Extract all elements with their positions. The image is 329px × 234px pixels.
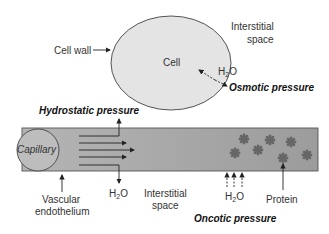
interstitial-space-bottom-line2: space xyxy=(152,200,179,211)
oncotic-water-label: H2O xyxy=(225,191,244,203)
capillary-tube xyxy=(22,128,318,171)
interstitial-space-top-line2: space xyxy=(247,34,274,45)
vascular-label-line1: Vascular xyxy=(42,194,81,205)
capillary-label: Capillary xyxy=(17,144,57,155)
fluid-pressure-diagram: Cell Cell wall Interstitial space H2O Os… xyxy=(0,0,329,234)
hydrostatic-water-label: H2O xyxy=(109,188,128,200)
oncotic-pressure-label: Oncotic pressure xyxy=(194,213,277,224)
oncotic-water-arrows xyxy=(227,173,242,187)
cell-wall-label: Cell wall xyxy=(54,45,91,56)
vascular-label-line2: endothelium xyxy=(35,206,89,217)
interstitial-space-top-line1: Interstitial xyxy=(231,21,274,32)
interstitial-space-bottom-line1: Interstitial xyxy=(144,188,187,199)
hydrostatic-pressure-label: Hydrostatic pressure xyxy=(39,105,139,116)
cell-label: Cell xyxy=(163,57,180,68)
protein-label: Protein xyxy=(266,194,298,205)
osmotic-pressure-label: Osmotic pressure xyxy=(229,82,314,93)
